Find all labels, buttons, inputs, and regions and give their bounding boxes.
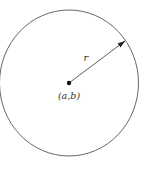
center-label: (a,b): [58, 90, 80, 101]
radius-arrow: [69, 41, 125, 83]
circle-diagram: r (a,b): [0, 0, 147, 171]
radius-label: r: [84, 52, 90, 63]
center-point: [67, 81, 71, 85]
